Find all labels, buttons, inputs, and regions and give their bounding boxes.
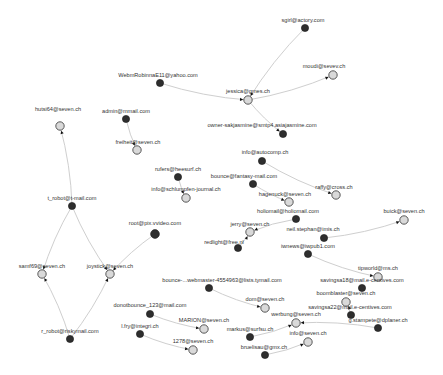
node-label: info@schlumpfen-journal.ch [151,186,220,192]
sender-node[interactable] [258,157,265,164]
recipient-node[interactable] [189,346,197,354]
sender-node[interactable] [249,180,256,187]
recipient-node[interactable] [106,270,114,278]
recipient-node[interactable] [246,228,254,236]
recipient-node[interactable] [38,270,46,278]
node-label: tipworld@ms.ch [358,265,398,271]
node-label: joystick@seven.ch [86,263,133,269]
node-label: rufers@heesurf.ch [155,166,201,172]
recipient-node[interactable] [244,96,252,104]
recipient-node[interactable] [329,71,337,79]
arrowhead-icon [301,321,304,324]
node-label: raffy@cross.ch [315,184,352,190]
node-label: info@autocomp.ch [242,149,289,155]
node-label: jerry@seven.ch [230,221,270,227]
node-label: markus@surfsu.ch [227,326,274,332]
node-label: werbung@seven.ch [270,311,321,317]
sender-node[interactable] [301,24,308,31]
node-label: owner-sakjasmine@smtp4.asiajasmine.com [207,122,317,128]
node-label: redlight@free.nl [204,239,244,245]
sender-node[interactable] [146,310,153,317]
recipient-node[interactable] [182,194,190,202]
node-label: 1278@seven.ch [173,338,214,344]
sender-node[interactable] [151,230,160,239]
arrowhead-icon [240,98,243,101]
sender-node[interactable] [205,284,212,291]
node-label: t_robot@t-mail.com [48,195,97,201]
sender-node[interactable] [174,173,181,180]
node-label: info@seven.ch [289,330,326,336]
node-label: sgirl@actory.com [282,17,325,23]
recipient-node[interactable] [133,146,141,154]
sender-node[interactable] [320,234,327,241]
sender-node[interactable] [279,130,286,137]
node-label: jessica@gmes.ch [225,88,270,94]
node-label: donotbounce_123@mail.com [114,302,187,308]
recipient-node[interactable] [332,191,340,199]
sender-node[interactable] [122,115,129,122]
node-label: neil.stephan@imis.ch [286,226,339,232]
sender-node[interactable] [234,244,241,251]
sender-node[interactable] [156,79,163,86]
recipient-node[interactable] [200,325,208,333]
node-label: bounce-...webmaster-4554963@lists.tymail… [162,277,282,283]
node-label: boomblaster@seven.ch [317,290,376,296]
recipient-node[interactable] [292,319,300,327]
node-label: savingsa22@mail.e-centives.com [308,304,392,310]
recipient-node[interactable] [400,216,408,224]
sender-node[interactable] [261,351,268,358]
node-label: hagenuck@seven.ch [259,191,311,197]
node-label: WebmRobinnaE11@yahoo.com [118,72,198,78]
node-label: samf69@seven.ch [19,263,65,269]
sender-node[interactable] [304,250,311,257]
labels-layer: WebmRobinnaE11@yahoo.comsgirl@actory.com… [19,17,425,350]
sender-node[interactable] [292,215,299,222]
edge [296,322,378,328]
node-label: r_robot@riskymail.com [41,328,99,334]
node-label: hutsi64@seven.ch [35,106,81,112]
sender-node[interactable] [66,335,73,342]
recipient-node[interactable] [304,338,312,346]
node-label: buick@seven.ch [383,208,424,214]
node-label: MARION@seven.ch [179,317,229,323]
email-network-graph: WebmRobinnaE11@yahoo.comsgirl@actory.com… [0,0,443,375]
node-label: moudi@sevev.ch [303,63,346,69]
node-label: bounce@fantasy-mail.com [211,173,278,179]
node-label: dom@seven.ch [246,296,285,302]
node-label: holiomail@holiomail.com [257,208,319,214]
node-label: bruelisau@gmx.ch [241,344,287,350]
sender-node[interactable] [374,324,381,331]
node-label: iwnews@iwpub1.com [281,243,335,249]
recipient-node[interactable] [285,198,293,206]
recipient-node[interactable] [261,304,269,312]
sender-node[interactable] [68,202,75,209]
node-label: root@pix.vvideo.com [129,220,182,226]
node-label: freiheit@seven.ch [116,139,161,145]
recipient-node[interactable] [56,122,64,130]
sender-node[interactable] [246,333,253,340]
node-label: g.stampete@dplaner.ch [348,317,407,323]
node-label: admin@mmail.com [102,108,150,114]
edge [60,126,72,206]
node-label: savingsa18@mail.e-centives.com [320,277,404,283]
node-label: l.fry@integri.ch [121,323,158,329]
arrowhead-icon [257,305,260,308]
edge [126,119,137,150]
sender-node[interactable] [136,330,143,337]
